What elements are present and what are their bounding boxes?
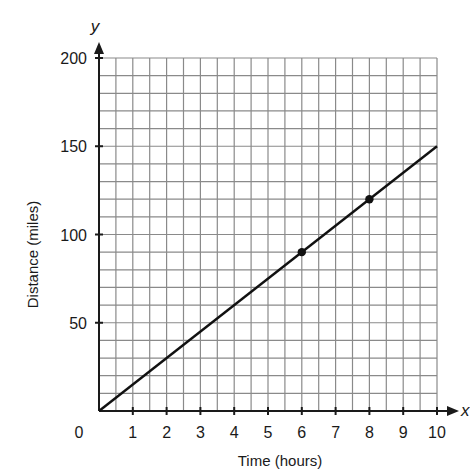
axes: [94, 42, 459, 416]
x-tick-label: 3: [196, 424, 205, 441]
x-tick-label: 8: [365, 424, 374, 441]
x-tick-label: 0: [75, 424, 84, 441]
y-axis-arrow-icon: [94, 42, 104, 54]
x-tick-label: 9: [399, 424, 408, 441]
x-tick-label: 10: [428, 424, 446, 441]
x-tick-label: 4: [230, 424, 239, 441]
y-tick-label: 200: [60, 50, 87, 67]
x-axis-arrow-icon: [447, 406, 459, 416]
x-tick-label: 2: [162, 424, 171, 441]
x-tick-label: 5: [264, 424, 273, 441]
x-axis-title: Time (hours): [238, 452, 322, 469]
y-tick-label: 100: [60, 227, 87, 244]
x-tick-label: 1: [128, 424, 137, 441]
ticks: 01234567891050100150200: [60, 50, 446, 441]
grid: [99, 58, 437, 411]
distance-time-chart: 01234567891050100150200 Time (hours) Dis…: [0, 0, 470, 475]
y-tick-label: 150: [60, 138, 87, 155]
x-axis-variable: x: [460, 401, 470, 420]
data-point: [298, 248, 306, 256]
y-axis-title: Distance (miles): [24, 201, 41, 309]
x-tick-label: 7: [331, 424, 340, 441]
x-tick-label: 6: [297, 424, 306, 441]
y-tick-label: 50: [69, 315, 87, 332]
y-axis-variable: y: [90, 17, 101, 36]
data-point: [365, 195, 373, 203]
